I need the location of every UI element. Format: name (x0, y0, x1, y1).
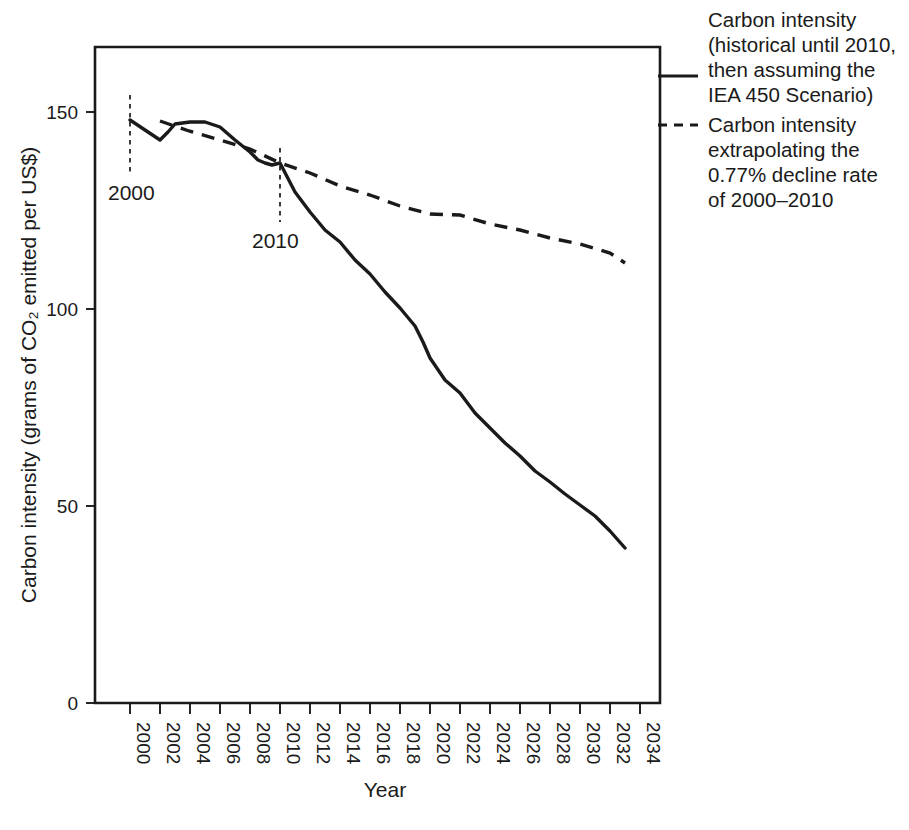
x-axis-tick-labels: 2000 2002 2004 2006 2008 2010 2012 2014 … (133, 722, 664, 765)
plot-border (95, 47, 660, 703)
x-tick-label-2030: 2030 (583, 722, 604, 764)
x-tick-label-2022: 2022 (463, 722, 484, 764)
legend-entry-2-line-3: 0.77% decline rate (708, 163, 878, 186)
x-tick-label-2000: 2000 (133, 722, 154, 764)
x-tick-label-2006: 2006 (223, 722, 244, 764)
x-tick-label-2020: 2020 (433, 722, 454, 764)
annotation-label-2000: 2000 (108, 181, 155, 204)
x-tick-label-2008: 2008 (253, 722, 274, 764)
x-tick-label-2028: 2028 (553, 722, 574, 764)
x-tick-label-2016: 2016 (373, 722, 394, 764)
carbon-intensity-line-chart: 150 100 50 0 Carbon intensity (grams of … (0, 0, 909, 830)
legend-entry-1-line-4: IEA 450 Scenario) (708, 83, 873, 106)
y-axis-title: Carbon intensity (grams of CO₂ emitted p… (17, 147, 40, 603)
y-tick-label-150: 150 (46, 102, 78, 123)
x-axis-ticks (130, 703, 640, 714)
x-axis-title: Year (364, 778, 406, 801)
y-axis-ticks (86, 112, 95, 703)
series-iea-450-scenario (130, 120, 625, 548)
legend-entry-1-line-2: (historical until 2010, (708, 33, 896, 56)
chart-legend: Carbon intensity (historical until 2010,… (658, 8, 896, 211)
chart-figure: 150 100 50 0 Carbon intensity (grams of … (0, 0, 909, 830)
x-tick-label-2032: 2032 (613, 722, 634, 764)
x-tick-label-2012: 2012 (313, 722, 334, 764)
x-tick-label-2004: 2004 (193, 722, 214, 765)
x-tick-label-2010: 2010 (283, 722, 304, 764)
y-axis-tick-labels: 150 100 50 0 (46, 102, 78, 714)
annotation-labels: 2000 2010 (108, 181, 299, 252)
legend-entry-2-line-4: of 2000–2010 (708, 188, 833, 211)
legend-entry-1-line-1: Carbon intensity (708, 8, 857, 31)
x-tick-label-2024: 2024 (493, 722, 514, 765)
legend-entry-1-line-3: then assuming the (708, 58, 876, 81)
annotation-label-2010: 2010 (252, 229, 299, 252)
x-tick-label-2026: 2026 (523, 722, 544, 764)
plot-frame (95, 47, 660, 703)
x-tick-label-2018: 2018 (403, 722, 424, 764)
x-tick-label-2014: 2014 (343, 722, 364, 765)
series-extrapolated-trend (160, 121, 625, 263)
legend-entry-2-line-1: Carbon intensity (708, 113, 857, 136)
y-tick-label-50: 50 (57, 496, 78, 517)
x-tick-label-2034: 2034 (643, 722, 664, 765)
x-tick-label-2002: 2002 (163, 722, 184, 764)
legend-entry-2-line-2: extrapolating the (708, 138, 860, 161)
y-tick-label-100: 100 (46, 299, 78, 320)
y-tick-label-0: 0 (67, 693, 78, 714)
